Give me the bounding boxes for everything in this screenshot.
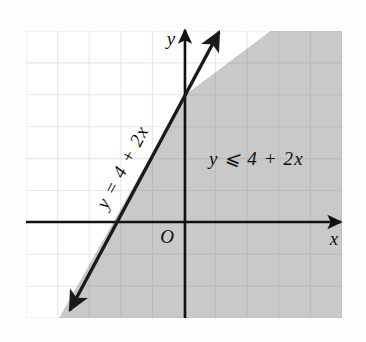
origin-label: O: [160, 226, 174, 247]
inequality-graph-figure: y x O y ⩽ 4 + 2x y = 4 + 2x: [0, 0, 366, 342]
region-inequality-label: y ⩽ 4 + 2x: [207, 148, 304, 169]
y-axis-label: y: [165, 28, 176, 49]
graph-canvas: y x O y ⩽ 4 + 2x y = 4 + 2x: [0, 0, 366, 342]
x-axis-label: x: [329, 228, 339, 249]
